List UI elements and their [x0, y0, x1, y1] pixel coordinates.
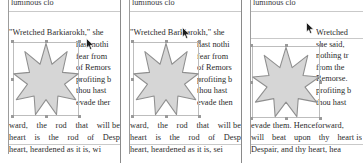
- shape-selection-2[interactable]: [133, 42, 199, 116]
- resize-handle-sw[interactable]: [11, 115, 14, 118]
- wrapped-line: hast nothi: [197, 39, 230, 51]
- resize-handle-w[interactable]: [131, 78, 134, 81]
- lead-line-1: "Wretched Barkiarokh," she: [9, 27, 120, 39]
- wrapped-line: fear from: [197, 51, 228, 63]
- page-bottom-gutter-2: [121, 154, 242, 163]
- resize-handle-ne[interactable]: [319, 44, 322, 47]
- resize-handle-e[interactable]: [198, 78, 201, 81]
- text-frame-rule-bottom-2: [130, 144, 242, 145]
- shape-selection-1[interactable]: [13, 42, 79, 116]
- nine-point-star-icon: [13, 42, 79, 116]
- text-wrap-comparison-strip: luminous clo "Wretched Barkiarokh," she …: [0, 0, 363, 163]
- top-clipped-line-3: luminous clo: [253, 0, 296, 7]
- resize-handle-w[interactable]: [11, 78, 14, 81]
- resize-handle-nw[interactable]: [11, 40, 14, 43]
- wrap-preview-panel-2[interactable]: luminous clo "Wretched Barkiarokh," she …: [121, 0, 242, 163]
- text-frame-rule-top-2: [130, 11, 242, 12]
- resize-handle-se[interactable]: [78, 115, 81, 118]
- body-line-3a: evade them. Henceforward,: [251, 120, 362, 132]
- resize-handle-w[interactable]: [250, 81, 253, 84]
- wrapped-line: thou hast: [197, 85, 227, 97]
- resize-handle-n[interactable]: [285, 44, 288, 47]
- wrapped-line: of Remors: [197, 62, 232, 74]
- top-clipped-line-2: luminous clo: [132, 0, 175, 7]
- resize-handle-s[interactable]: [285, 117, 288, 120]
- resize-handle-e[interactable]: [78, 78, 81, 81]
- resize-handle-ne[interactable]: [78, 40, 81, 43]
- resize-handle-sw[interactable]: [131, 115, 134, 118]
- wrapped-line: profiting b: [76, 74, 111, 86]
- wrapped-text-column-2: hast nothi fear from of Remors profiting…: [197, 39, 241, 109]
- resize-handle-ne[interactable]: [198, 40, 201, 43]
- body-line-1a: ward, the rod that will be: [9, 120, 120, 132]
- resize-handle-nw[interactable]: [131, 40, 134, 43]
- resize-handle-nw[interactable]: [250, 44, 253, 47]
- wrapped-line: evade ther: [76, 97, 110, 109]
- shape-selection-3[interactable]: [252, 46, 320, 118]
- text-frame-rule-bottom-3: [251, 144, 363, 145]
- wrap-preview-panel-1[interactable]: luminous clo "Wretched Barkiarokh," she …: [0, 0, 121, 163]
- text-frame-rule-top-1: [9, 11, 121, 12]
- wrap-preview-panel-3[interactable]: luminous clo Wretched she said, nothing …: [242, 0, 363, 163]
- wrapped-text-column-3: Wretched she said, nothing tr from the R…: [316, 27, 362, 108]
- body-line-1b: heart is the rod of Desp: [9, 132, 120, 144]
- lead-line-2: "Wretched Barkiarokh," she: [130, 27, 241, 39]
- resize-handle-n[interactable]: [45, 40, 48, 43]
- wrapped-line: thou hast: [76, 85, 106, 97]
- body-line-2a: ward, the rod that will be: [130, 120, 241, 132]
- nine-point-star-icon: [133, 42, 199, 116]
- panel-divider-2: [241, 0, 242, 163]
- wrapped-text-column-1: hast nothi fear from of Remors profiting…: [76, 39, 120, 109]
- page-bottom-gutter-3: [242, 154, 363, 163]
- text-frame-rule-top-3: [251, 11, 363, 12]
- wrapped-line: profiting b: [197, 74, 232, 86]
- wrapped-line: nothing tr: [316, 50, 349, 62]
- resize-handle-e[interactable]: [319, 81, 322, 84]
- resize-handle-s[interactable]: [165, 115, 168, 118]
- wrapped-line: profiting b: [316, 85, 351, 97]
- body-line-2b: heart is the rod of Desp: [130, 132, 241, 144]
- wrapped-line: thou hast: [316, 97, 346, 109]
- text-frame-rule-bottom-1: [9, 144, 121, 145]
- resize-handle-se[interactable]: [198, 115, 201, 118]
- wrapped-line: from the: [316, 62, 344, 74]
- wrapped-line: evade then: [197, 97, 233, 109]
- top-clipped-line-1: luminous clo: [11, 0, 54, 7]
- resize-handle-sw[interactable]: [250, 117, 253, 120]
- page-bottom-gutter-1: [0, 154, 121, 163]
- body-line-3b: will beat upon thy heart is: [251, 132, 362, 144]
- resize-handle-n[interactable]: [165, 40, 168, 43]
- wrapped-line: fear from: [76, 51, 107, 63]
- resize-handle-se[interactable]: [319, 117, 322, 120]
- resize-handle-s[interactable]: [45, 115, 48, 118]
- panel-divider-1: [120, 0, 121, 163]
- wrapped-line: of Remors: [76, 62, 111, 74]
- lead-line-3: Wretched: [316, 27, 348, 39]
- nine-point-star-icon: [252, 46, 320, 118]
